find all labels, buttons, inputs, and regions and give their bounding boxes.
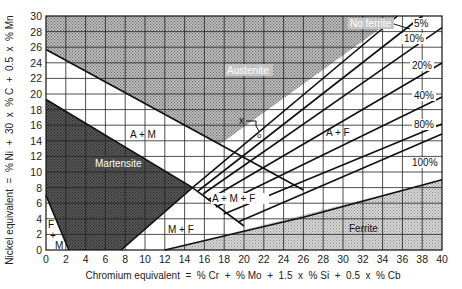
svg-text:22: 22 xyxy=(258,253,270,265)
svg-text:18: 18 xyxy=(30,104,42,116)
svg-text:4: 4 xyxy=(83,253,89,265)
svg-text:4: 4 xyxy=(36,213,42,225)
label-a-m: A + M xyxy=(130,129,156,140)
label-martensite: Martensite xyxy=(95,158,142,169)
svg-text:10: 10 xyxy=(139,253,151,265)
svg-text:20: 20 xyxy=(30,88,42,100)
svg-text:24: 24 xyxy=(278,253,290,265)
svg-text:40: 40 xyxy=(436,253,448,265)
x-tick-labels: 0 2 4 6 8 10 12 14 16 18 20 22 24 26 28 … xyxy=(43,253,448,265)
svg-text:0: 0 xyxy=(43,253,49,265)
svg-text:2: 2 xyxy=(63,253,69,265)
svg-text:8: 8 xyxy=(122,253,128,265)
svg-text:38: 38 xyxy=(416,253,428,265)
label-5pct: 5% xyxy=(414,18,429,29)
svg-text:10: 10 xyxy=(30,166,42,178)
label-m: M xyxy=(55,240,63,251)
x-mark: x xyxy=(239,115,244,126)
svg-text:0: 0 xyxy=(36,244,42,256)
svg-text:20: 20 xyxy=(238,253,250,265)
svg-text:6: 6 xyxy=(36,197,42,209)
svg-text:14: 14 xyxy=(179,253,191,265)
grid xyxy=(46,16,442,250)
svg-text:16: 16 xyxy=(30,119,42,131)
svg-text:34: 34 xyxy=(377,253,389,265)
svg-text:26: 26 xyxy=(298,253,310,265)
svg-text:18: 18 xyxy=(218,253,230,265)
svg-text:28: 28 xyxy=(317,253,329,265)
svg-text:22: 22 xyxy=(30,72,42,84)
label-austenite: Austenite xyxy=(227,65,269,76)
label-a-f: A + F xyxy=(326,127,350,138)
label-20pct: 20% xyxy=(412,60,432,71)
svg-text:8: 8 xyxy=(36,182,42,194)
label-ferrite: Ferrite xyxy=(349,223,378,234)
label-40pct: 40% xyxy=(414,90,434,101)
svg-text:26: 26 xyxy=(30,41,42,53)
svg-text:30: 30 xyxy=(30,10,42,22)
no-ferrite-label: No ferrite xyxy=(350,18,392,29)
label-f: F xyxy=(48,219,54,230)
label-a-m-f: A + M + F xyxy=(212,193,255,204)
x-axis-label: Chromium equivalent = % Cr + % Mo + 1.5 … xyxy=(85,270,401,281)
svg-text:6: 6 xyxy=(102,253,108,265)
o-mark: o xyxy=(257,131,262,140)
svg-text:32: 32 xyxy=(357,253,369,265)
label-100pct: 100% xyxy=(412,157,438,168)
y-tick-labels: 0 2 4 6 8 10 12 14 16 18 20 22 24 26 28 … xyxy=(30,10,42,256)
svg-text:16: 16 xyxy=(199,253,211,265)
svg-text:14: 14 xyxy=(30,135,42,147)
svg-text:24: 24 xyxy=(30,57,42,69)
svg-text:12: 12 xyxy=(30,150,42,162)
svg-text:2: 2 xyxy=(36,228,42,240)
label-m-f: M + F xyxy=(168,224,194,235)
schaeffler-diagram: x o No ferrite 5% 10% 20% 40% 80% 100% A… xyxy=(0,0,462,289)
svg-text:28: 28 xyxy=(30,26,42,38)
svg-text:30: 30 xyxy=(337,253,349,265)
y-axis-label: Nickel equivalent = % Ni + 30 x % C + 0.… xyxy=(4,15,15,264)
label-80pct: 80% xyxy=(414,119,434,130)
svg-text:36: 36 xyxy=(397,253,409,265)
label-10pct: 10% xyxy=(404,33,424,44)
svg-text:12: 12 xyxy=(159,253,171,265)
